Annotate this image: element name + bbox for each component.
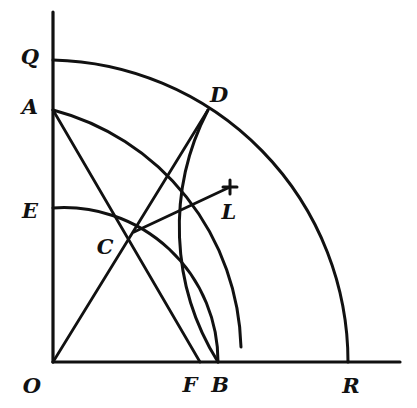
point-label-C: C <box>97 234 114 259</box>
point-label-B: B <box>210 372 229 397</box>
point-label-L: L <box>221 199 237 224</box>
geometry-figure: Q A E O C D L F B R <box>0 0 417 408</box>
point-label-O: O <box>23 373 42 398</box>
figure-canvas: Q A E O C D L F B R <box>0 0 417 408</box>
arc-A-through-D-to-B <box>53 110 241 347</box>
point-label-E: E <box>21 198 39 223</box>
point-label-R: R <box>341 373 359 398</box>
point-label-D: D <box>209 82 229 107</box>
point-label-F: F <box>182 372 200 397</box>
cross-marker-L <box>223 180 237 194</box>
point-label-A: A <box>20 94 38 119</box>
point-label-Q: Q <box>21 44 39 69</box>
